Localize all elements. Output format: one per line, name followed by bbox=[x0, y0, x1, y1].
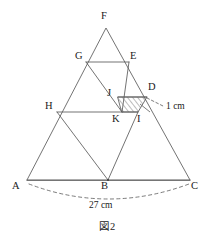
vertex-label-C: C bbox=[191, 181, 198, 192]
figure-2-container: F G E J D H K I A B C 1 cm 27 cm 図2 bbox=[0, 0, 215, 245]
vertex-label-G: G bbox=[75, 51, 83, 62]
side-dimension-label: 1 cm bbox=[166, 102, 185, 112]
base-dimension-arc bbox=[29, 184, 189, 199]
side-dimension-leader bbox=[147, 98, 163, 106]
base-dimension-label: 27 cm bbox=[89, 201, 112, 211]
vertex-label-B: B bbox=[101, 181, 108, 192]
vertex-label-A: A bbox=[12, 181, 20, 192]
segment-H-B bbox=[57, 112, 108, 180]
vertex-label-F: F bbox=[101, 11, 107, 22]
vertex-label-E: E bbox=[130, 51, 136, 62]
vertex-label-J: J bbox=[107, 88, 111, 99]
vertex-label-H: H bbox=[45, 101, 53, 112]
vertex-label-D: D bbox=[148, 82, 156, 93]
vertex-label-K: K bbox=[112, 114, 120, 125]
figure-caption: 図2 bbox=[0, 221, 215, 233]
vertex-label-I: I bbox=[137, 114, 141, 125]
segment-G-K bbox=[86, 62, 122, 112]
